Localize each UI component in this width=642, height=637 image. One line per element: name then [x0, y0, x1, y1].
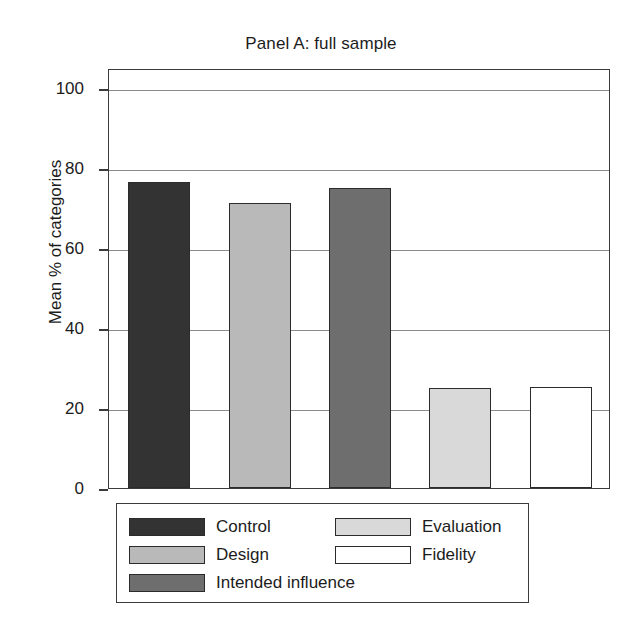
tick-mark-0 — [99, 489, 108, 491]
legend-entry: Intended influence — [129, 569, 355, 596]
y-tick-label-0: 0 — [22, 479, 84, 499]
legend-column-right: EvaluationFidelity — [335, 513, 501, 569]
legend-swatch-icon — [129, 518, 205, 536]
legend-entry: Design — [129, 541, 355, 568]
bar-intended-influence — [329, 188, 391, 488]
gridline-80 — [109, 170, 609, 171]
y-tick-label-80: 80 — [22, 159, 84, 179]
y-axis-ticks: 100806040200 — [0, 0, 108, 637]
bar-fidelity — [530, 387, 592, 488]
legend-label: Control — [216, 517, 271, 537]
tick-mark-80 — [99, 169, 108, 171]
tick-mark-20 — [99, 409, 108, 411]
y-tick-label-40: 40 — [22, 319, 84, 339]
tick-mark-100 — [99, 89, 108, 91]
legend-label: Evaluation — [422, 517, 501, 537]
legend-entry: Fidelity — [335, 541, 501, 568]
legend-column-left: ControlDesignIntended influence — [129, 513, 355, 597]
y-tick-label-100: 100 — [22, 79, 84, 99]
chart-legend: ControlDesignIntended influence Evaluati… — [116, 503, 529, 603]
tick-mark-40 — [99, 329, 108, 331]
y-tick-label-60: 60 — [22, 239, 84, 259]
gridline-100 — [109, 90, 609, 91]
legend-label: Intended influence — [216, 573, 355, 593]
bar-control — [128, 182, 190, 488]
bar-design — [229, 203, 291, 488]
bar-evaluation — [429, 388, 491, 488]
y-tick-label-20: 20 — [22, 399, 84, 419]
plot-area — [108, 69, 610, 489]
legend-entry: Evaluation — [335, 513, 501, 540]
legend-label: Design — [216, 545, 269, 565]
legend-entry: Control — [129, 513, 355, 540]
legend-swatch-icon — [335, 518, 411, 536]
tick-mark-60 — [99, 249, 108, 251]
legend-swatch-icon — [335, 546, 411, 564]
bar-chart-figure: Panel A: full sample Mean % of categorie… — [0, 0, 642, 637]
legend-swatch-icon — [129, 546, 205, 564]
legend-swatch-icon — [129, 574, 205, 592]
legend-label: Fidelity — [422, 545, 476, 565]
